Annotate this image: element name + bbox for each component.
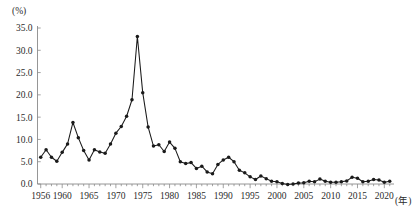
data-point-marker — [205, 170, 209, 174]
data-point-marker — [248, 175, 252, 179]
data-point-marker — [211, 172, 215, 176]
data-point-marker — [216, 163, 220, 167]
data-point-marker — [238, 168, 242, 172]
data-point-marker — [345, 179, 349, 183]
data-point-marker — [120, 125, 124, 129]
data-point-marker — [340, 180, 344, 184]
x-tick-label: 1970 — [106, 191, 125, 201]
x-tick-label: 1975 — [133, 191, 152, 201]
data-point-marker — [291, 182, 295, 186]
data-point-marker — [146, 125, 150, 129]
x-tick-label: 2020 — [375, 191, 394, 201]
x-tick-label: 1960 — [53, 191, 72, 201]
data-point-marker — [60, 151, 64, 155]
data-point-marker — [162, 150, 166, 154]
series-line — [41, 36, 390, 184]
data-point-marker — [39, 156, 43, 160]
data-point-marker — [66, 142, 70, 146]
x-tick-label: 1956 — [31, 191, 50, 201]
data-point-marker — [93, 148, 97, 152]
data-point-marker — [173, 147, 177, 151]
y-tick-label: 25.0 — [16, 68, 33, 78]
data-point-marker — [157, 143, 161, 147]
x-axis: 1956196019651970197519801985199019952000… — [31, 184, 394, 201]
y-axis-unit-label: (%) — [12, 6, 26, 17]
data-point-marker — [281, 182, 285, 186]
x-axis-unit-label: (年) — [395, 195, 411, 207]
data-point-marker — [50, 156, 54, 160]
data-point-marker — [361, 180, 365, 184]
data-point-marker — [130, 98, 134, 102]
y-tick-label: 15.0 — [16, 113, 33, 123]
line-chart: 0.05.010.015.020.025.030.035.0 195619601… — [0, 0, 420, 215]
y-tick-label: 20.0 — [16, 90, 33, 100]
data-point-marker — [313, 180, 317, 184]
y-axis: 0.05.010.015.020.025.030.035.0 — [16, 23, 41, 189]
data-point-marker — [275, 180, 279, 184]
data-point-marker — [98, 150, 102, 154]
data-point-marker — [82, 149, 86, 153]
data-point-marker — [324, 180, 328, 184]
x-tick-label: 2005 — [294, 191, 313, 201]
data-point-marker — [71, 121, 75, 125]
data-point-marker — [55, 160, 59, 164]
data-point-marker — [200, 164, 204, 168]
data-point-marker — [125, 115, 128, 119]
x-tick-label: 1995 — [241, 191, 260, 201]
x-tick-label: 1985 — [187, 191, 206, 201]
data-point-marker — [136, 35, 140, 39]
data-point-marker — [222, 158, 226, 162]
data-point-marker — [286, 183, 290, 187]
data-point-marker — [232, 160, 236, 164]
data-point-marker — [302, 181, 306, 185]
data-point-marker — [195, 167, 199, 171]
data-point-marker — [114, 131, 118, 135]
data-point-marker — [350, 176, 354, 180]
data-point-marker — [318, 177, 322, 181]
data-point-marker — [366, 180, 370, 184]
data-point-marker — [168, 140, 172, 144]
x-tick-label: 2000 — [267, 191, 286, 201]
data-point-marker — [388, 180, 392, 184]
data-point-marker — [254, 178, 257, 182]
y-tick-label: 0.0 — [21, 179, 33, 189]
data-point-marker — [270, 180, 274, 184]
data-point-marker — [259, 174, 263, 178]
data-point-marker — [109, 142, 113, 146]
data-point-marker — [377, 178, 381, 182]
data-point-marker — [152, 144, 156, 148]
data-point-marker — [297, 181, 301, 185]
data-point-marker — [227, 156, 231, 160]
x-tick-label: 1980 — [160, 191, 179, 201]
x-tick-label: 2015 — [348, 191, 367, 201]
data-point-marker — [264, 177, 268, 181]
x-tick-label: 1965 — [80, 191, 99, 201]
y-tick-label: 35.0 — [16, 23, 33, 33]
data-point-marker — [184, 162, 188, 166]
data-point-marker — [356, 176, 360, 180]
chart-page: 0.05.010.015.020.025.030.035.0 195619601… — [0, 0, 420, 215]
y-tick-label: 10.0 — [16, 135, 33, 145]
y-tick-label: 30.0 — [16, 46, 33, 56]
data-point-marker — [189, 161, 193, 165]
data-point-marker — [334, 180, 338, 184]
data-point-marker — [103, 152, 107, 156]
data-point-marker — [77, 136, 81, 140]
plot-area — [39, 35, 391, 186]
data-point-marker — [179, 160, 183, 164]
data-point-marker — [307, 180, 311, 184]
data-point-marker — [329, 180, 333, 184]
y-tick-label: 5.0 — [21, 157, 33, 167]
data-point-marker — [44, 148, 48, 152]
data-point-marker — [87, 158, 91, 162]
data-point-marker — [243, 171, 247, 175]
x-tick-label: 1990 — [214, 191, 233, 201]
data-point-marker — [141, 91, 145, 95]
data-point-marker — [383, 180, 387, 184]
x-tick-label: 2010 — [321, 191, 340, 201]
data-point-marker — [372, 178, 376, 182]
